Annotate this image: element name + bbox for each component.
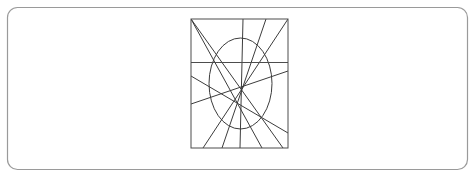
diagonal-line-6 xyxy=(191,71,288,104)
figure-svg xyxy=(0,0,475,177)
diagonal-line-7 xyxy=(191,76,288,133)
figure-canvas xyxy=(0,0,475,177)
inner-composition-group xyxy=(191,19,288,148)
clipped-lines-group xyxy=(191,19,288,148)
